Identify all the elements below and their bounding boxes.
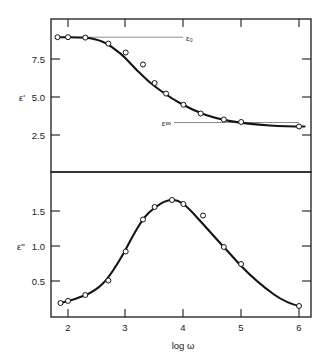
epsilon-zero-annotation: ε₀ [186, 34, 193, 43]
upper-ytick-label-1: 5.0 [32, 92, 45, 103]
x-axis-title: log ω [172, 340, 195, 351]
xtick-label-1: 3 [122, 322, 127, 333]
xtick-label-2: 4 [180, 322, 185, 333]
upper-panel-frame [51, 19, 311, 172]
upper-panel: 7.5 5.0 2.5 ε' ε₀ ε∞ [19, 19, 311, 172]
lower-ytick-label-0: 1.5 [32, 206, 45, 217]
chart-canvas: 7.5 5.0 2.5 ε' ε₀ ε∞ [0, 0, 333, 364]
upper-y-axis-title: ε' [19, 92, 25, 103]
epsilon-infinity-annotation: ε∞ [162, 119, 172, 128]
lower-ytick-label-2: 0.5 [32, 276, 45, 287]
lower-xtick-marks [68, 309, 299, 317]
xtick-label-4: 6 [296, 322, 301, 333]
upper-ytick-label-2: 2.5 [32, 130, 45, 141]
lower-data-markers [58, 198, 302, 309]
lower-panel-frame [51, 172, 311, 317]
upper-xtick-marks [68, 19, 299, 27]
lower-y-axis-title: ε'' [17, 241, 25, 252]
upper-ytick-label-0: 7.5 [32, 54, 45, 65]
upper-ytick-marks [51, 59, 311, 135]
lower-ytick-label-1: 1.0 [32, 241, 45, 252]
upper-data-markers [55, 35, 302, 129]
lower-ytick-marks [51, 211, 311, 281]
xtick-label-0: 2 [65, 322, 70, 333]
lower-panel: 1.5 1.0 0.5 ε'' 2 3 4 5 6 log ω [17, 172, 311, 351]
lower-loss-curve [61, 200, 301, 306]
dielectric-relaxation-figure: 7.5 5.0 2.5 ε' ε₀ ε∞ [0, 0, 333, 364]
xtick-label-3: 5 [238, 322, 243, 333]
upper-dispersion-curve [57, 37, 305, 126]
